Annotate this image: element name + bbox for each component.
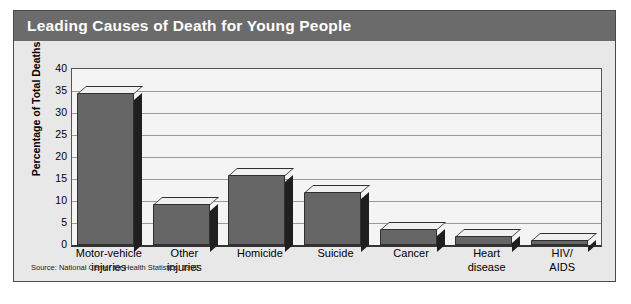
bar-front-face — [455, 236, 512, 245]
bar-top-face — [228, 168, 294, 176]
bar-side-face — [134, 93, 142, 252]
bar-front-face — [77, 93, 134, 245]
bar-slot — [455, 69, 512, 245]
x-axis-label: Homicide — [222, 247, 298, 261]
bar-slot — [531, 69, 588, 245]
x-axis-label-line: HIV/ — [524, 247, 600, 261]
bar[interactable] — [380, 229, 437, 245]
x-axis-label-line: Suicide — [298, 247, 374, 261]
bar[interactable] — [455, 236, 512, 245]
bar-front-face — [304, 192, 361, 245]
bar[interactable] — [228, 175, 285, 245]
bar-side-face — [285, 176, 293, 252]
bar-series — [72, 69, 601, 245]
x-axis-label-line: Cancer — [373, 247, 449, 261]
y-axis-tick-0: 0 — [61, 238, 67, 250]
bar[interactable] — [531, 240, 588, 245]
x-axis-label-line: AIDS — [524, 261, 600, 275]
bar-front-face — [228, 175, 285, 245]
x-axis-label-line: disease — [449, 261, 525, 275]
y-axis-tick-5: 5 — [61, 216, 67, 228]
bar-top-face — [304, 185, 370, 193]
x-axis-label-line: Homicide — [222, 247, 298, 261]
y-axis-tick-10: 10 — [55, 194, 67, 206]
bar[interactable] — [304, 192, 361, 245]
y-axis-tick-15: 15 — [55, 172, 67, 184]
bar-slot — [304, 69, 361, 245]
bar-top-face — [153, 197, 219, 205]
source-note: Source: National Center for Health Stati… — [31, 263, 199, 272]
bar[interactable] — [77, 93, 134, 245]
y-axis-tick-40: 40 — [55, 62, 67, 74]
bar-top-face — [455, 229, 521, 237]
x-axis-label-line: Motor-vehicle — [71, 247, 147, 261]
y-axis-tick-30: 30 — [55, 106, 67, 118]
y-axis-tick-35: 35 — [55, 84, 67, 96]
y-axis-title: Percentage of Total Deaths — [30, 24, 42, 194]
chart-figure-panel: Leading Causes of Death for Young People… — [13, 10, 616, 282]
y-axis-tick-25: 25 — [55, 128, 67, 140]
page-title: Leading Causes of Death for Young People — [14, 17, 351, 35]
bar-slot — [228, 69, 285, 245]
x-axis-label: Cancer — [373, 247, 449, 261]
chart-body: Percentage of Total Deaths 0510152025303… — [14, 41, 615, 281]
x-axis-label-line: Other — [147, 247, 223, 261]
bar[interactable] — [153, 204, 210, 245]
plot-area — [71, 68, 602, 247]
bar-top-face — [380, 222, 446, 230]
bar-slot — [380, 69, 437, 245]
bar-front-face — [380, 229, 437, 245]
bar-slot — [77, 69, 134, 245]
chart-title-bar: Leading Causes of Death for Young People — [14, 11, 615, 41]
bar-side-face — [361, 192, 369, 252]
x-axis-label: HIV/AIDS — [524, 247, 600, 274]
x-axis-label: Suicide — [298, 247, 374, 261]
x-axis-label-line: Heart — [449, 247, 525, 261]
bar-top-face — [77, 86, 143, 94]
x-axis-label: Heartdisease — [449, 247, 525, 274]
bar-side-face — [210, 204, 218, 252]
y-axis-tick-labels: 0510152025303540 — [45, 41, 67, 281]
bar-top-face — [531, 233, 597, 241]
bar-slot — [153, 69, 210, 245]
y-axis-tick-20: 20 — [55, 150, 67, 162]
bar-front-face — [153, 204, 210, 245]
